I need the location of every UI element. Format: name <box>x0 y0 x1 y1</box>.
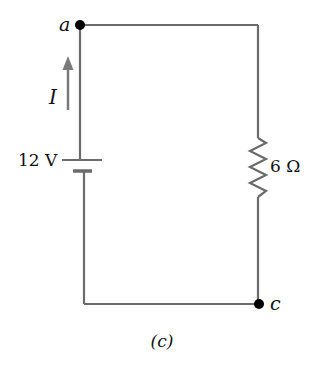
current-label: I <box>48 85 58 109</box>
node-a-label: a <box>59 13 70 35</box>
figure-caption: (c) <box>151 331 174 351</box>
node-c-label: c <box>270 292 281 314</box>
node-a-dot <box>75 20 85 30</box>
battery-symbol <box>62 160 102 171</box>
current-arrow-icon <box>63 56 74 110</box>
node-c-dot <box>254 299 264 309</box>
resistor-symbol <box>250 138 266 197</box>
resistor-label: 6 Ω <box>270 156 300 176</box>
battery-label: 12 V <box>18 150 58 170</box>
circuit-diagram: a c I 12 V 6 Ω (c) <box>0 0 319 365</box>
